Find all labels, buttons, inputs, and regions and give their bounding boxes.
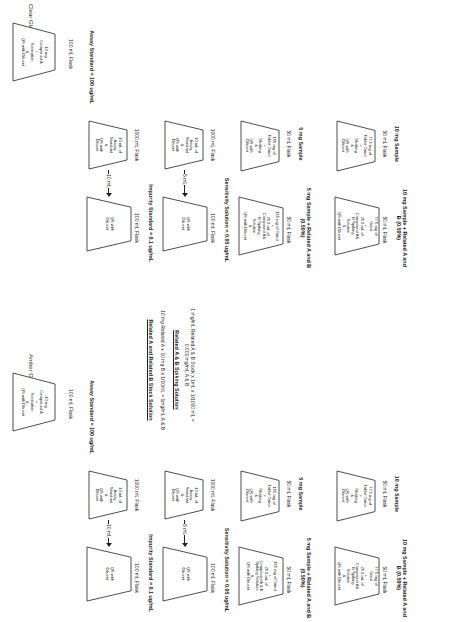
rotated-canvas bbox=[0, 0, 458, 622]
